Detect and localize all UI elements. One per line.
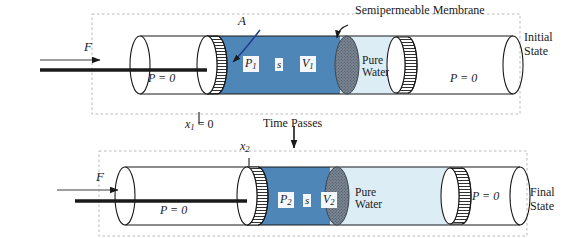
final-state-line1: Final	[530, 185, 555, 199]
time-passes-label: Time Passes	[263, 117, 322, 130]
initial-position-label: x1 = 0	[185, 118, 213, 133]
final-left-pressure-label: P = 0	[160, 204, 187, 217]
initial-pure-water-line2: Water	[362, 66, 389, 78]
final-solution-pressure-subscript: 2	[287, 197, 291, 207]
initial-area-label: A	[238, 14, 246, 28]
final-solution-volume-subscript: 2	[330, 197, 334, 207]
final-pure-water-label: Pure Water	[355, 186, 382, 211]
final-left-piston	[237, 167, 268, 225]
initial-right-piston	[387, 37, 417, 93]
initial-solution-pressure-subscript: 1	[252, 61, 256, 71]
final-solution-pressure-label: P2	[278, 192, 294, 208]
final-solution-volume-label: V2	[321, 192, 337, 208]
final-solution-entropy-label: s	[303, 194, 311, 207]
initial-state-line2: State	[524, 44, 553, 58]
initial-left-piston	[197, 36, 227, 94]
final-left-vacuum-fill	[125, 167, 250, 225]
initial-right-pressure-label: P = 0	[450, 72, 477, 85]
semipermeable-membrane-label: Semipermeable Membrane	[355, 4, 485, 17]
initial-solution-pressure-label: P1	[243, 56, 259, 72]
osmotic-pressure-figure: F P = 0 P = 0 P1 s V1 Pure Water A Semip…	[0, 0, 564, 238]
initial-solution-volume-subscript: 1	[309, 61, 313, 71]
initial-state-line1: Initial	[524, 30, 553, 44]
initial-semipermeable-membrane	[335, 36, 359, 94]
initial-position-value: = 0	[198, 117, 214, 131]
final-right-pressure-label: P = 0	[472, 190, 499, 203]
final-position-subscript: 2	[245, 144, 249, 154]
initial-left-pressure-label: P = 0	[148, 72, 175, 85]
initial-force-label: F	[84, 40, 92, 54]
final-force-label: F	[96, 170, 104, 184]
initial-solution-entropy-label: s	[275, 58, 283, 71]
initial-solution-volume-label: V1	[300, 56, 316, 72]
initial-state-label: Initial State	[524, 30, 553, 58]
final-state-label: Final State	[530, 185, 555, 213]
initial-pure-water-label: Pure Water	[362, 54, 389, 79]
final-state-line2: State	[530, 199, 555, 213]
final-pure-water-line2: Water	[355, 198, 382, 210]
initial-tube-fills	[140, 36, 516, 94]
initial-pure-water-line1: Pure	[362, 54, 389, 66]
initial-position-subscript: 1	[190, 122, 194, 132]
final-right-piston	[441, 168, 471, 224]
final-position-label: x2	[240, 140, 250, 155]
final-tube-left-cap	[115, 167, 135, 225]
initial-tube-left-cap	[130, 36, 150, 94]
final-pure-water-line1: Pure	[355, 186, 382, 198]
